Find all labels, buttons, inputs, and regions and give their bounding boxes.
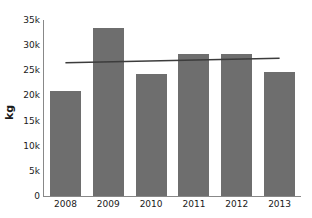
y-axis-title-text: kg <box>3 104 16 119</box>
x-axis-tick-label: 2013 <box>268 199 291 209</box>
bar <box>264 72 295 196</box>
x-axis-tick-label: 2010 <box>140 199 163 209</box>
y-axis-tick-labels: 05k10k15k20k25k30k35k <box>16 0 40 218</box>
plot-area <box>44 20 301 196</box>
y-axis-tick-label: 0 <box>16 192 40 201</box>
bar <box>93 28 124 196</box>
x-axis-line <box>43 196 301 197</box>
x-axis-tick-label: 2009 <box>97 199 120 209</box>
x-axis-tick-label: 2012 <box>225 199 248 209</box>
y-axis-tick-label: 15k <box>16 116 40 125</box>
bar <box>221 54 252 196</box>
y-axis-tick-label: 10k <box>16 141 40 150</box>
y-axis-tick-label: 25k <box>16 66 40 75</box>
x-axis-tick-label: 2011 <box>182 199 205 209</box>
y-axis-tick-label: 5k <box>16 166 40 175</box>
bar <box>178 54 209 196</box>
bar-chart: kg 05k10k15k20k25k30k35k 200820092010201… <box>0 0 312 218</box>
bar <box>50 91 81 196</box>
bar <box>136 74 167 196</box>
y-axis-tick-label: 30k <box>16 41 40 50</box>
x-axis-tick-label: 2008 <box>54 199 77 209</box>
x-axis-tick-labels: 200820092010201120122013 <box>44 199 301 217</box>
y-axis-tick-label: 20k <box>16 91 40 100</box>
y-axis-tick-label: 35k <box>16 16 40 25</box>
